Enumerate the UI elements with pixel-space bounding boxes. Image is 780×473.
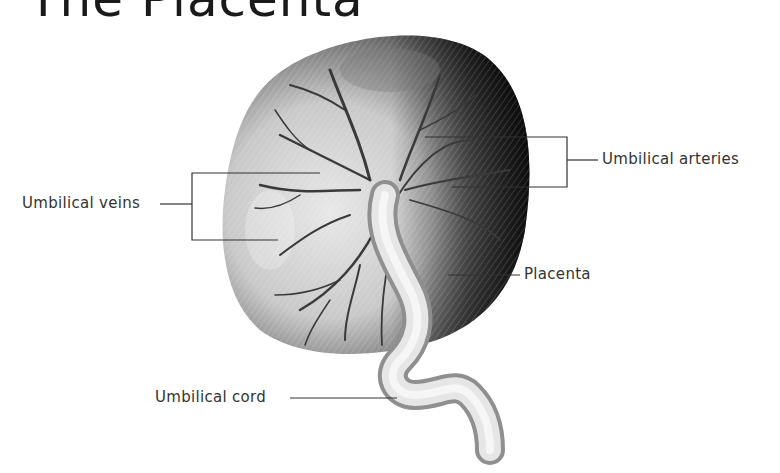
label-umbilical-cord: Umbilical cord (155, 388, 266, 406)
label-umbilical-arteries: Umbilical arteries (602, 150, 739, 168)
label-placenta: Placenta (524, 265, 591, 283)
label-umbilical-veins: Umbilical veins (22, 194, 140, 212)
placenta-illustration (0, 0, 780, 473)
